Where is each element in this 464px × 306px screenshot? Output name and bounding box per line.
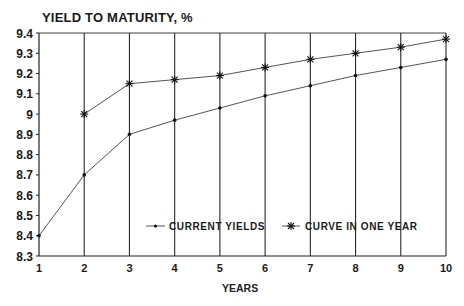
dot-marker-icon xyxy=(128,133,132,137)
y-tick-label: 9 xyxy=(26,108,33,122)
dot-marker-icon xyxy=(82,173,86,177)
y-tick-label: 8.3 xyxy=(16,250,33,264)
dot-marker-icon xyxy=(399,66,403,70)
y-tick-label: 8.7 xyxy=(16,168,33,182)
x-tick-label: 9 xyxy=(398,262,404,274)
dot-marker-icon xyxy=(354,74,358,78)
y-tick-label: 9.2 xyxy=(16,67,33,81)
x-tick-label: 2 xyxy=(81,262,87,274)
x-tick-label: 8 xyxy=(352,262,358,274)
legend-curve-in-one-year-label: CURVE IN ONE YEAR xyxy=(305,221,418,232)
dot-marker-icon xyxy=(37,234,41,238)
x-tick-label: 5 xyxy=(217,262,223,274)
x-tick-label: 3 xyxy=(126,262,132,274)
y-tick-label: 9.1 xyxy=(16,87,33,101)
dot-marker-icon xyxy=(444,58,448,62)
x-axis-label: YEARS xyxy=(222,282,258,294)
x-tick-label: 7 xyxy=(307,262,313,274)
y-tick-label: 8.4 xyxy=(16,229,33,243)
y-tick-label: 8.6 xyxy=(16,189,33,203)
x-tick-label: 4 xyxy=(172,262,179,274)
y-tick-label: 9.3 xyxy=(16,47,33,61)
dot-marker-icon xyxy=(173,118,177,122)
y-tick-label: 8.8 xyxy=(16,148,33,162)
y-tick-label: 9.4 xyxy=(16,27,33,41)
line-chart: 8.38.48.58.68.78.88.999.19.29.39.4123456… xyxy=(0,0,464,306)
x-tick-label: 1 xyxy=(36,262,42,274)
legend-dot-marker-icon xyxy=(154,224,157,227)
dot-marker-icon xyxy=(263,94,267,98)
x-tick-label: 10 xyxy=(440,262,452,274)
dot-marker-icon xyxy=(218,106,222,110)
x-tick-label: 6 xyxy=(262,262,268,274)
y-tick-label: 8.9 xyxy=(16,128,33,142)
current-yields-line xyxy=(39,59,446,235)
legend-current-yields-label: CURRENT YIELDS xyxy=(169,221,265,232)
y-tick-label: 8.5 xyxy=(16,209,33,223)
dot-marker-icon xyxy=(309,84,313,88)
